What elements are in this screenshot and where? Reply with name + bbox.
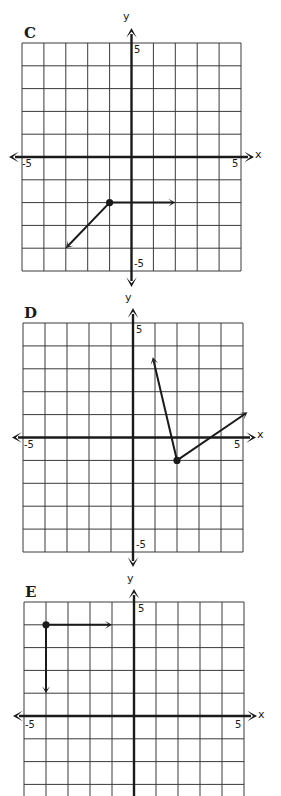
angle-vertex-point xyxy=(42,621,49,628)
y-axis-label: y xyxy=(127,572,134,585)
tick-x-max: 5 xyxy=(235,719,241,730)
graph-e: E y x -5 5 5 xyxy=(0,0,281,796)
coordinate-plane xyxy=(0,0,281,796)
tick-x-min: -5 xyxy=(25,719,35,730)
x-axis-label: x xyxy=(258,708,265,721)
tick-y-max: 5 xyxy=(138,603,144,614)
